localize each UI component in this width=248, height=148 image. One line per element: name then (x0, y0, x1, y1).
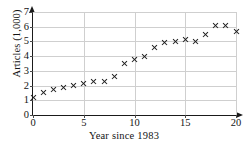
data-point-marker (172, 38, 179, 45)
y-tick-mark (30, 86, 33, 87)
data-point-marker (50, 86, 57, 93)
y-tick-mark (30, 100, 33, 101)
y-tick-mark (30, 27, 33, 28)
data-point-marker (161, 39, 168, 46)
data-point-marker (121, 60, 128, 67)
gridline-vertical (84, 12, 85, 115)
data-point-marker (233, 28, 240, 35)
gridline-vertical (185, 12, 186, 115)
data-point-marker (212, 22, 219, 29)
x-tick-label: 0 (23, 117, 43, 128)
data-point-marker (70, 82, 77, 89)
plot-area (33, 12, 236, 115)
data-point-marker (40, 89, 47, 96)
data-point-marker (90, 78, 97, 85)
data-point-marker (192, 38, 199, 45)
y-tick-label: 6 (15, 22, 29, 32)
x-tick-label: 20 (226, 117, 246, 128)
x-axis-title: Year since 1983 (0, 130, 248, 141)
y-tick-mark (30, 12, 33, 13)
data-point-marker (222, 22, 229, 29)
x-tick-label: 15 (175, 117, 195, 128)
data-point-marker (101, 78, 108, 85)
y-tick-mark (30, 71, 33, 72)
y-tick-mark (30, 41, 33, 42)
y-tick-label: 7 (15, 7, 29, 17)
y-tick-label: 1 (15, 95, 29, 105)
data-point-marker (131, 56, 138, 63)
data-point-marker (60, 84, 67, 91)
y-tick-label: 3 (15, 66, 29, 76)
data-point-marker (151, 44, 158, 51)
data-point-marker (182, 36, 189, 43)
data-point-marker (80, 80, 87, 87)
data-point-marker (141, 53, 148, 60)
x-tick-label: 10 (125, 117, 145, 128)
x-tick-label: 5 (74, 117, 94, 128)
y-tick-label: 5 (15, 36, 29, 46)
data-point-marker (202, 31, 209, 38)
scatter-plot-figure: Articles (1,000) 0123456705101520 Year s… (0, 0, 248, 148)
y-tick-mark (30, 56, 33, 57)
y-tick-label: 4 (15, 51, 29, 61)
data-point-marker (111, 73, 118, 80)
gridline-vertical (135, 12, 136, 115)
y-tick-label: 2 (15, 81, 29, 91)
